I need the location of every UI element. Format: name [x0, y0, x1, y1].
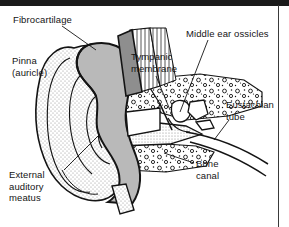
ossicle-stapes	[196, 120, 214, 130]
label-eustachian-tube: Eustachian tube	[226, 99, 274, 122]
ear-anatomy-figure: Fibrocartilage Pinna (auricle) Tympanic …	[0, 0, 289, 227]
leader-eustachian	[214, 120, 229, 140]
label-fibrocartilage: Fibrocartilage	[13, 14, 72, 26]
label-middle-ear-ossicles: Middle ear ossicles	[186, 28, 269, 40]
label-external-auditory-meatus: External auditory meatus	[9, 169, 45, 204]
label-tympanic-membrane: Tympanic membrane	[131, 51, 177, 74]
label-pinna-auricle: Pinna (auricle)	[12, 55, 47, 78]
label-bone-canal: Bone canal	[196, 158, 219, 181]
